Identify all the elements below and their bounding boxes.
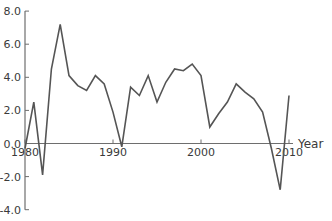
y-tick-label: 8.0 xyxy=(4,5,22,18)
data-line xyxy=(25,24,289,190)
x-axis-title: Year xyxy=(297,137,323,151)
y-tick-label: 2.0 xyxy=(4,104,22,117)
x-axis: 1980199020002010 xyxy=(11,140,303,159)
y-tick-label: 6.0 xyxy=(4,38,22,51)
y-tick-label: -2.0 xyxy=(0,171,21,184)
y-axis: 8.06.04.02.00.0-2.0-4.0 xyxy=(0,5,29,217)
y-tick-label: 4.0 xyxy=(4,71,22,84)
line-chart: 8.06.04.02.00.0-2.0-4.0 1980199020002010… xyxy=(0,0,332,221)
x-tick-label: 2000 xyxy=(187,146,215,159)
x-tick-label: 1990 xyxy=(99,146,127,159)
y-tick-label: -4.0 xyxy=(0,204,21,217)
